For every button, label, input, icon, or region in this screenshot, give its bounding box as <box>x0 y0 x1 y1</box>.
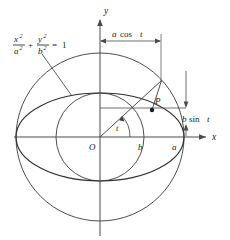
x-axis-arrowhead <box>199 134 206 140</box>
dimension-vertical-var2: t <box>207 114 210 124</box>
y-axis-label: y <box>103 6 109 16</box>
dimension-horizontal-function: cos <box>120 29 132 39</box>
ellipse-equation: x 2 a 2 + y 2 b 2 = 1 <box>13 33 67 56</box>
equation-exponent-b: 2 <box>44 45 47 51</box>
point-p-marker <box>150 108 154 112</box>
dimension-horizontal-var1: a <box>112 29 117 39</box>
point-p-label: P <box>154 96 161 106</box>
dimension-arrowhead-right <box>155 39 161 44</box>
semi-major-axis-label: a <box>172 142 177 152</box>
dimension-arrowhead-down <box>184 102 189 109</box>
equation-right-hand-side: 1 <box>62 40 67 50</box>
equation-equals-sign: = <box>52 40 57 50</box>
equation-numerator-y: y <box>37 34 42 44</box>
y-axis-arrowhead <box>97 19 103 26</box>
dimension-vertical-var1: b <box>182 114 187 124</box>
equation-exponent-a: 2 <box>20 45 23 51</box>
ellipse-parametric-figure: x y t P O b a a cos t b sin t x 2 a 2 <box>0 0 230 240</box>
dimension-vertical-function: sin <box>189 114 200 124</box>
equation-denominator-b: b <box>38 46 43 56</box>
equation-exponent-y: 2 <box>44 33 47 39</box>
dimension-horizontal-var2: t <box>140 29 143 39</box>
dimension-arrowhead-left <box>100 39 106 44</box>
angle-t-label: t <box>116 124 119 133</box>
equation-denominator-a: a <box>14 46 19 56</box>
origin-label: O <box>89 142 96 152</box>
x-axis-label: x <box>211 132 217 142</box>
equation-plus-sign: + <box>28 40 33 50</box>
equation-exponent-x: 2 <box>20 33 23 39</box>
equation-leader-line <box>42 54 72 96</box>
equation-numerator-x: x <box>13 34 18 44</box>
semi-minor-axis-label: b <box>138 142 143 152</box>
dimension-arrowhead-up <box>184 124 189 131</box>
figure-canvas: x y t P O b a a cos t b sin t x 2 a 2 <box>0 0 230 240</box>
